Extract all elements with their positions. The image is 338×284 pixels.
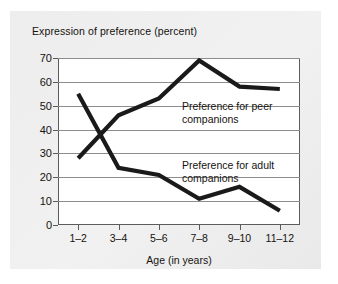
- y-axis-tick-label: 70: [40, 52, 52, 64]
- x-axis-tick-label: 1–2: [69, 232, 87, 244]
- x-axis-tick-label: 7–8: [190, 232, 208, 244]
- y-axis-tick-label: 30: [40, 147, 52, 159]
- annotation-peer-line1: Preference for peer: [182, 100, 272, 113]
- y-axis-tick-label: 40: [40, 124, 52, 136]
- y-axis-tick-mark: [53, 225, 58, 226]
- x-axis-tick-mark: [240, 225, 241, 230]
- x-axis-tick-label: 3–4: [110, 232, 128, 244]
- figure-canvas: Expression of preference (percent) 01020…: [0, 0, 338, 284]
- y-axis-tick-label: 60: [40, 76, 52, 88]
- x-axis-tick-mark: [119, 225, 120, 230]
- series-lines: [58, 58, 300, 225]
- chart-title: Expression of preference (percent): [32, 25, 197, 37]
- x-axis-tick-mark: [159, 225, 160, 230]
- x-axis-title: Age (in years): [146, 254, 211, 266]
- y-axis-tick-label: 20: [40, 171, 52, 183]
- annotation-adult-line2: companions: [182, 172, 274, 185]
- y-axis-tick-label: 50: [40, 100, 52, 112]
- x-axis-tick-mark: [199, 225, 200, 230]
- x-axis-tick-label: 5–6: [150, 232, 168, 244]
- annotation-peer-line2: companions: [182, 113, 272, 126]
- plot-wrapper: 010203040506070 1–23–45–67–89–1011–12 Pr…: [58, 58, 300, 225]
- y-axis-tick-label: 10: [40, 195, 52, 207]
- annotation-adult-line1: Preference for adult: [182, 159, 274, 172]
- x-axis-tick-label: 11–12: [266, 232, 294, 244]
- chart-card: Expression of preference (percent) 01020…: [10, 11, 321, 269]
- x-axis-tick-label: 9–10: [228, 232, 251, 244]
- annotation-peer-companions: Preference for peer companions: [182, 100, 272, 126]
- annotation-adult-companions: Preference for adult companions: [182, 159, 274, 185]
- x-axis-tick-mark: [280, 225, 281, 230]
- y-axis-tick-label: 0: [46, 219, 52, 231]
- x-axis-tick-mark: [78, 225, 79, 230]
